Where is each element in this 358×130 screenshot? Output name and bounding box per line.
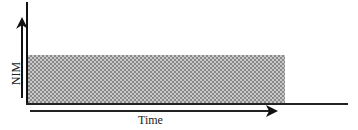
y-axis-label: NIM — [9, 59, 24, 89]
nim-time-diagram: NIM Time — [0, 0, 358, 130]
axis-arrows — [0, 0, 358, 130]
x-axis-label: Time — [138, 113, 163, 128]
